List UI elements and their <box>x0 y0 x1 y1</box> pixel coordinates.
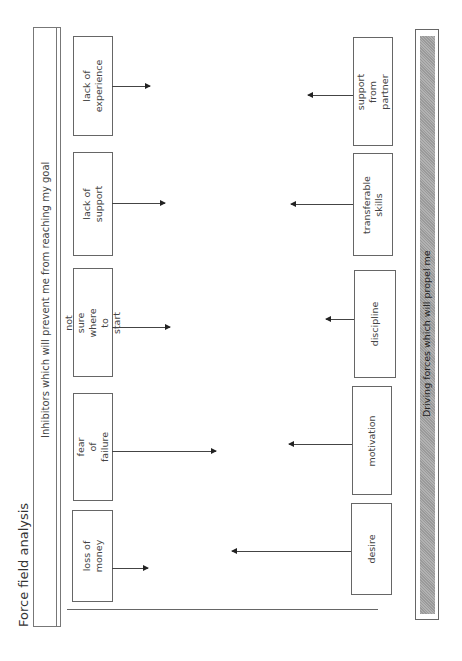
inhibitor-box: lack of experience <box>73 36 113 136</box>
driving-force-box: motivation <box>352 386 392 495</box>
driving-force-box: desire <box>351 503 392 595</box>
inhibitor-label: fear of failure <box>75 432 111 462</box>
inhibitors-header-label: Inhibitors which will prevent me from re… <box>40 162 51 438</box>
inhibitor-label: lack of experience <box>81 60 105 113</box>
inhibitor-label: loss of money <box>81 540 105 573</box>
force-arrow-icon <box>112 327 170 328</box>
force-arrow-icon <box>326 319 354 320</box>
inhibitor-label: lack of support <box>81 186 105 222</box>
driving-force-box: discipline <box>354 270 396 378</box>
inhibitor-box: fear of failure <box>73 393 113 501</box>
force-arrow-icon <box>308 95 353 96</box>
force-arrow-icon <box>112 451 216 452</box>
baseline-divider <box>67 609 378 610</box>
driving-forces-header-label: Driving forces which will propel me <box>421 250 432 417</box>
driving-force-label: motivation <box>366 415 378 466</box>
force-arrow-icon <box>112 86 150 87</box>
diagram-title: Force field analysis <box>16 503 31 627</box>
inhibitor-label: not sure where to start <box>63 308 122 337</box>
driving-force-box: transferable skills <box>353 153 393 256</box>
force-arrow-icon <box>291 204 353 205</box>
force-arrow-icon <box>112 568 148 569</box>
driving-force-label: support from partner <box>355 73 391 109</box>
force-arrow-icon <box>232 551 351 552</box>
force-arrow-icon <box>289 444 352 445</box>
inhibitor-box: lack of support <box>73 152 113 256</box>
driving-force-label: desire <box>366 534 378 563</box>
inhibitor-box: not sure where to start <box>73 268 113 377</box>
driving-force-box: support from partner <box>353 37 393 146</box>
inhibitor-box: loss of money <box>72 510 113 602</box>
force-arrow-icon <box>112 203 165 204</box>
force-field-diagram: Force field analysis Inhibitors which wi… <box>0 0 462 661</box>
driving-force-label: transferable skills <box>361 176 385 234</box>
driving-force-label: discipline <box>369 302 381 347</box>
